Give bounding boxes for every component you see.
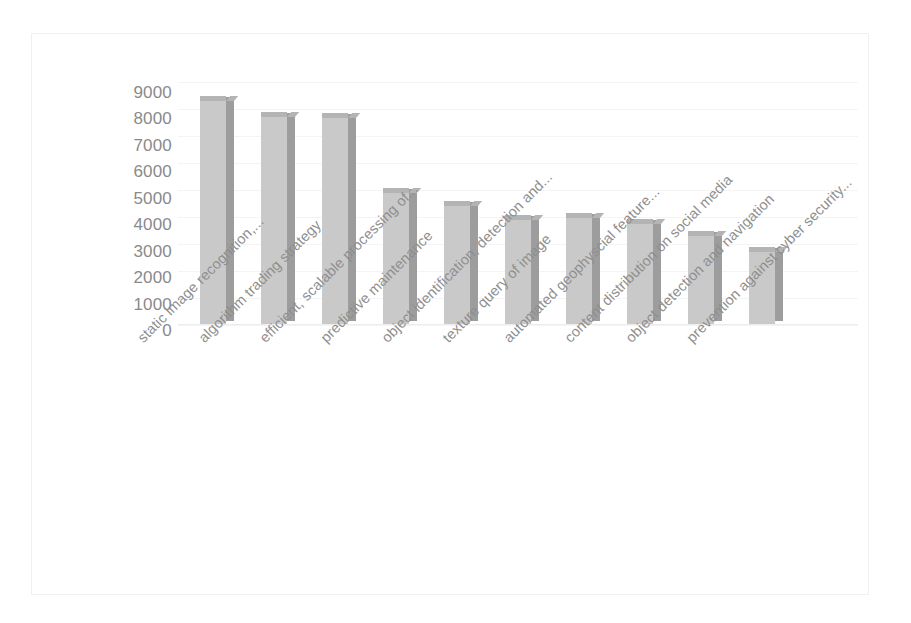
gridline [178,325,858,326]
bar-top-face [383,188,409,193]
bar[interactable] [566,212,601,325]
bar-top-bevel [287,112,299,117]
bar-top-face [261,112,287,117]
bar-top-face [444,201,470,206]
bar[interactable] [505,214,540,325]
bar-side-face [775,248,783,321]
gridline [178,109,858,110]
bar-top-face [200,96,226,101]
bar-side-face [531,216,539,321]
bar-front-face [749,252,775,325]
bar[interactable] [688,230,723,325]
y-axis-tick-label: 5000 [108,190,172,207]
bar-front-face [200,101,226,325]
bar-front-face [261,117,287,325]
bar-top-face [749,247,775,252]
bar-top-bevel [348,113,360,118]
bar-side-face [287,113,295,321]
bar-side-face [409,189,417,321]
chart-figure: 9000800070006000500040003000200010000 st… [0,0,911,623]
bar-top-face [505,215,531,220]
y-axis: 9000800070006000500040003000200010000 [108,72,172,334]
bar[interactable] [322,112,357,325]
bar-side-face [714,232,722,321]
bar-front-face [322,118,348,325]
y-axis-tick-label: 7000 [108,137,172,154]
bar-top-bevel [775,247,787,252]
bar-top-face [566,213,592,218]
y-axis-tick-label: 0 [108,322,172,339]
bar-side-face [348,114,356,321]
bar[interactable] [200,95,235,325]
bar[interactable] [261,111,296,325]
bar[interactable] [383,187,418,325]
bar-side-face [226,97,234,321]
bar-side-face [653,220,661,321]
bar-top-face [688,231,714,236]
axis-baseline [178,324,858,325]
bar-front-face [627,224,653,325]
bar[interactable] [749,246,784,325]
bar-front-face [505,220,531,325]
bar-front-face [444,206,470,325]
bar-top-bevel [226,96,238,101]
bar-side-face [592,214,600,321]
bar[interactable] [627,218,662,325]
y-axis-tick-label: 1000 [108,296,172,313]
bar-top-bevel [714,231,726,236]
y-axis-tick-label: 8000 [108,110,172,127]
y-axis-tick-label: 4000 [108,216,172,233]
bar-front-face [688,236,714,325]
y-axis-tick-label: 6000 [108,163,172,180]
y-axis-tick-label: 2000 [108,269,172,286]
bar-top-face [627,219,653,224]
bar-front-face [383,193,409,325]
bar[interactable] [444,200,479,325]
y-axis-tick-label: 9000 [108,84,172,101]
bar-front-face [566,218,592,325]
gridline [178,82,858,83]
bar-top-face [322,113,348,118]
y-axis-tick-label: 3000 [108,243,172,260]
bar-top-bevel [470,201,482,206]
plot-area [178,82,858,325]
bar-side-face [470,202,478,321]
